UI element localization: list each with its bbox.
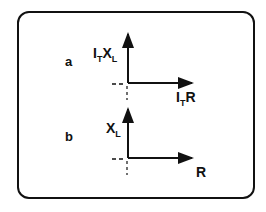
panel-b-x-label: R (196, 165, 206, 179)
panel-a-y-label: ITXL (93, 46, 117, 60)
panel-b-letter: b (65, 130, 73, 143)
panel-b-y-label: XL (106, 121, 121, 135)
panel-a-x-label: ITR (176, 90, 196, 104)
panel-a-letter: a (65, 55, 72, 68)
axes-drawing (0, 0, 266, 212)
panel-b-axes (112, 109, 192, 175)
